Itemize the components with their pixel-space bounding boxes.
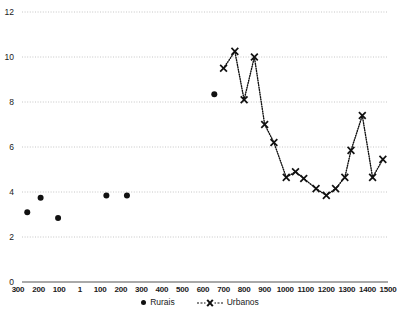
data-point — [103, 192, 109, 198]
series-line — [224, 51, 383, 195]
filled-circle-icon — [141, 300, 146, 305]
y-tick-label: 12 — [0, 8, 14, 16]
data-point — [38, 195, 44, 201]
data-point — [271, 139, 278, 146]
x-cross-icon — [197, 299, 223, 307]
series-urbanos — [220, 48, 386, 199]
x-tick-label: 1500 — [375, 286, 400, 294]
y-tick-label: 8 — [0, 98, 14, 106]
data-point — [379, 156, 386, 163]
data-point — [55, 215, 61, 221]
y-tick-label: 4 — [0, 188, 14, 196]
chart-container: 024681012 300200100110020030040050060070… — [0, 0, 400, 321]
y-tick-label: 6 — [0, 143, 14, 151]
data-point — [332, 185, 339, 192]
data-point — [323, 192, 330, 199]
data-point — [24, 209, 30, 215]
data-point — [292, 168, 299, 175]
data-point — [300, 175, 307, 182]
data-point — [211, 91, 217, 97]
data-point — [348, 147, 355, 154]
data-point — [283, 174, 290, 181]
y-tick-label: 10 — [0, 53, 14, 61]
data-point — [124, 192, 130, 198]
chart-legend: Rurais — [0, 298, 400, 307]
legend-item-urbanos: Urbanos — [197, 298, 259, 307]
legend-item-rurais: Rurais — [141, 298, 175, 307]
data-point — [313, 185, 320, 192]
legend-label-urbanos: Urbanos — [227, 298, 259, 307]
legend-label-rurais: Rurais — [150, 298, 175, 307]
series-rurais — [24, 91, 217, 221]
chart-plot — [0, 0, 400, 321]
y-tick-label: 2 — [0, 233, 14, 241]
data-point — [220, 65, 227, 72]
